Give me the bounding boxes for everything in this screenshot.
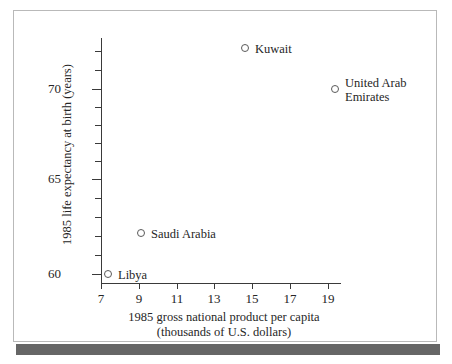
datapoint-label-libya-line1: Libya xyxy=(118,268,147,282)
y-axis-line xyxy=(101,38,102,284)
y-tick-minor-67 xyxy=(95,143,101,144)
x-axis-line xyxy=(101,283,341,284)
x-tick-label-13: 13 xyxy=(202,292,226,305)
x-axis-title-line1: 1985 gross national product per capita xyxy=(74,310,374,325)
datapoint-label-uae-line2: Emirates xyxy=(345,90,406,104)
datapoint-united-arab-emirates[interactable] xyxy=(331,85,339,93)
x-tick-label-19: 19 xyxy=(316,292,340,305)
x-tick-9 xyxy=(139,283,140,289)
x-tick-label-17: 17 xyxy=(278,292,302,305)
x-tick-label-15: 15 xyxy=(240,292,264,305)
x-axis-title-line2: (thousands of U.S. dollars) xyxy=(74,325,374,340)
y-tick-major-60 xyxy=(92,274,101,275)
y-tick-minor-62 xyxy=(95,236,101,237)
datapoint-label-kuwait: Kuwait xyxy=(255,42,292,56)
datapoint-libya[interactable] xyxy=(104,270,112,278)
datapoint-label-united-arab-emirates: United Arab Emirates xyxy=(345,76,406,104)
y-tick-minor-68 xyxy=(95,125,101,126)
x-tick-label-11: 11 xyxy=(165,292,189,305)
x-tick-7 xyxy=(101,283,102,289)
y-tick-minor-71 xyxy=(95,70,101,71)
datapoint-label-saudi-arabia-line1: Saudi Arabia xyxy=(151,227,216,241)
datapoint-label-uae-line1: United Arab xyxy=(345,76,406,90)
x-axis-title: 1985 gross national product per capita (… xyxy=(74,310,374,340)
x-tick-13 xyxy=(214,283,215,289)
scatter-plot-area: 70 65 60 7 9 11 13 15 17 19 1985 life ex… xyxy=(14,11,438,343)
y-tick-major-65 xyxy=(92,179,101,180)
figure-drop-shadow xyxy=(16,344,440,355)
x-tick-17 xyxy=(290,283,291,289)
x-tick-label-7: 7 xyxy=(89,292,113,305)
x-tick-15 xyxy=(252,283,253,289)
datapoint-label-libya: Libya xyxy=(118,268,147,282)
x-tick-label-9: 9 xyxy=(127,292,151,305)
x-tick-11 xyxy=(177,283,178,289)
y-tick-minor-61 xyxy=(95,255,101,256)
y-tick-minor-64 xyxy=(95,198,101,199)
y-axis-title: 1985 life expectancy at birth (years) xyxy=(60,45,75,265)
y-tick-minor-72 xyxy=(95,51,101,52)
y-tick-label-60: 60 xyxy=(48,267,61,280)
x-tick-19 xyxy=(328,283,329,289)
y-tick-minor-69 xyxy=(95,107,101,108)
y-tick-major-70 xyxy=(92,89,101,90)
y-tick-minor-63 xyxy=(95,217,101,218)
datapoint-kuwait[interactable] xyxy=(241,44,249,52)
y-tick-minor-66 xyxy=(95,161,101,162)
figure-frame: 70 65 60 7 9 11 13 15 17 19 1985 life ex… xyxy=(13,10,437,342)
datapoint-label-saudi-arabia: Saudi Arabia xyxy=(151,227,216,241)
datapoint-saudi-arabia[interactable] xyxy=(137,229,145,237)
datapoint-label-kuwait-line1: Kuwait xyxy=(255,42,292,56)
